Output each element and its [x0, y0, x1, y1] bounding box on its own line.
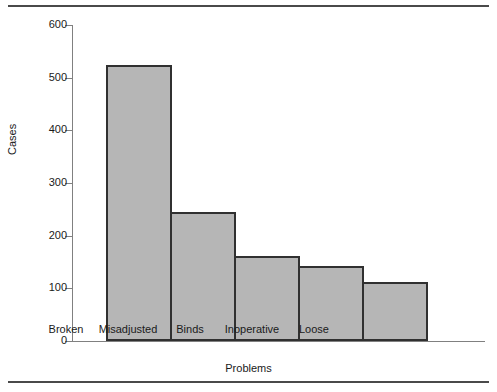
- y-tick-label: 600: [49, 18, 67, 31]
- x-tick-label-binds: Binds: [158, 322, 222, 336]
- x-tick-label-loose: Loose: [282, 322, 346, 336]
- x-tick-label-inoperative: Inoperative: [220, 322, 284, 336]
- plot-area: 0100200300400500600: [72, 25, 485, 342]
- y-tick-label: 300: [49, 176, 67, 189]
- x-axis-line: [72, 341, 485, 342]
- x-axis-tick-labels: BrokenMisadjustedBindsInoperativeLoose: [34, 322, 344, 336]
- y-tick-label: 400: [49, 123, 67, 136]
- y-tick-label: 200: [49, 229, 67, 242]
- top-horizontal-rule: [8, 5, 489, 7]
- y-axis-title: Cases: [6, 124, 18, 155]
- bar-series: [106, 25, 426, 341]
- figure-canvas: Cases 0100200300400500600 BrokenMisadjus…: [0, 0, 497, 392]
- bottom-horizontal-rule: [8, 381, 489, 383]
- x-axis-title: Problems: [0, 362, 497, 374]
- x-tick-label-misadjusted: Misadjusted: [96, 322, 160, 336]
- bar-loose[interactable]: [362, 282, 428, 341]
- bar-broken[interactable]: [106, 65, 172, 342]
- y-tick-label: 500: [49, 71, 67, 84]
- y-tick-label: 100: [49, 281, 67, 294]
- x-tick-label-broken: Broken: [34, 322, 98, 336]
